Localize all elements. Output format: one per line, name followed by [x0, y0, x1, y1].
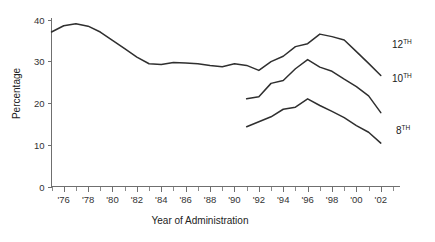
x-tick-label: '96 — [301, 194, 313, 205]
x-tick-label: '76 — [58, 194, 70, 205]
y-tick-label: 40 — [34, 15, 45, 26]
series-label-12th: 12TH — [392, 40, 412, 50]
y-axis-ticks — [48, 21, 52, 188]
x-tick-label: '94 — [277, 194, 289, 205]
x-tick-label: '90 — [228, 194, 240, 205]
series-line-12th — [52, 24, 381, 76]
y-tick-label: 10 — [34, 140, 45, 151]
x-tick-label: '92 — [253, 194, 265, 205]
x-tick-label: '82 — [131, 194, 143, 205]
series-label-8th: 8TH — [396, 126, 410, 136]
x-tick-label: '84 — [155, 194, 167, 205]
series-label-12th-suffix: TH — [403, 38, 412, 45]
series-label-10th: 10TH — [392, 74, 412, 84]
y-tick-label: 30 — [34, 56, 45, 67]
y-tick-label: 0 — [39, 182, 44, 193]
x-tick-label: '00 — [350, 194, 362, 205]
x-tick-label: '88 — [204, 194, 216, 205]
series-label-8th-suffix: TH — [402, 124, 411, 131]
series-label-12th-main: 12 — [392, 39, 403, 50]
x-tick-label: '78 — [82, 194, 94, 205]
y-axis-title: Percentage — [11, 48, 22, 140]
x-axis-title: Year of Administration — [0, 215, 400, 226]
chart-plot-area: 010203040 '76'78'80'82'84'86'88'90'92'94… — [0, 0, 435, 242]
x-tick-label: '02 — [375, 194, 387, 205]
x-tick-label: '80 — [106, 194, 118, 205]
x-tick-label: '86 — [179, 194, 191, 205]
series-label-10th-suffix: TH — [403, 72, 412, 79]
x-axis-ticks — [53, 187, 394, 192]
series-label-10th-main: 10 — [392, 73, 403, 84]
y-axis-tick-labels: 010203040 — [34, 15, 45, 193]
series-line-10th — [247, 60, 381, 113]
x-tick-label: '98 — [326, 194, 338, 205]
series-line-8th — [247, 99, 381, 143]
line-chart: 010203040 '76'78'80'82'84'86'88'90'92'94… — [0, 0, 435, 242]
y-tick-label: 20 — [34, 98, 45, 109]
series-lines — [52, 24, 381, 143]
x-axis-tick-labels: '76'78'80'82'84'86'88'90'92'94'96'98'00'… — [58, 194, 387, 205]
